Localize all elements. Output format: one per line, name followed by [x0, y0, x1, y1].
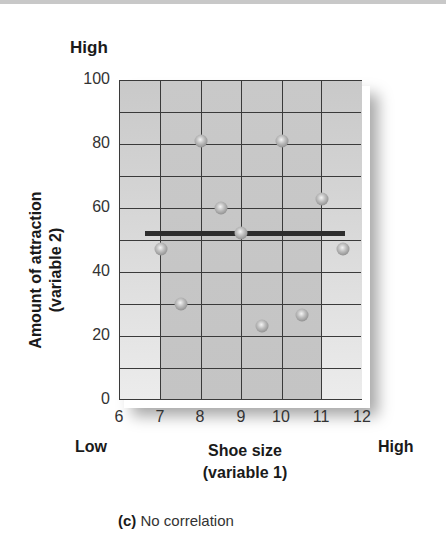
data-point	[175, 298, 188, 311]
data-point	[337, 243, 350, 256]
y-tick-100: 100	[70, 70, 110, 88]
gridline-y-40	[120, 272, 361, 273]
y-axis-title: Amount of attraction (variable 2)	[16, 170, 76, 370]
x-tick-12: 12	[347, 408, 377, 426]
caption-letter: (c)	[118, 512, 136, 529]
gridline-y-80	[120, 144, 361, 145]
x-tick-9: 9	[226, 408, 256, 426]
gridline-y-70	[120, 176, 361, 177]
data-point	[296, 309, 309, 322]
gridline-y-90	[120, 112, 361, 113]
gridline-y-10	[120, 368, 361, 369]
data-point	[155, 243, 168, 256]
y-axis-title-line1: Amount of attraction	[26, 170, 46, 370]
gridline-y-30	[120, 304, 361, 305]
y-tick-60: 60	[70, 198, 110, 216]
x-axis-title-line2: (variable 1)	[170, 462, 320, 484]
data-point	[195, 135, 208, 148]
y-tick-0: 0	[70, 390, 110, 408]
x-axis-high-label: High	[378, 438, 414, 456]
data-point	[235, 227, 248, 240]
y-tick-20: 20	[70, 326, 110, 344]
y-axis-title-line2: (variable 2)	[46, 170, 66, 370]
data-point	[316, 193, 329, 206]
data-point	[256, 320, 269, 333]
caption-text: No correlation	[136, 512, 234, 529]
y-axis-high-label: High	[70, 38, 108, 58]
data-point	[215, 202, 228, 215]
data-point	[276, 135, 289, 148]
x-axis-low-label: Low	[75, 438, 107, 456]
figure-caption: (c) No correlation	[118, 512, 234, 529]
plot-area	[119, 80, 362, 400]
y-tick-80: 80	[70, 134, 110, 152]
x-tick-6: 6	[104, 408, 134, 426]
gridline-y-50	[120, 240, 361, 241]
x-tick-10: 10	[266, 408, 296, 426]
x-axis-title: Shoe size (variable 1)	[170, 440, 320, 484]
y-tick-40: 40	[70, 262, 110, 280]
x-tick-8: 8	[185, 408, 215, 426]
top-border-strip	[0, 0, 446, 4]
gridline-y-20	[120, 336, 361, 337]
x-axis-title-line1: Shoe size	[170, 440, 320, 462]
gridline-y-60	[120, 208, 361, 209]
x-tick-7: 7	[145, 408, 175, 426]
x-tick-11: 11	[306, 408, 336, 426]
